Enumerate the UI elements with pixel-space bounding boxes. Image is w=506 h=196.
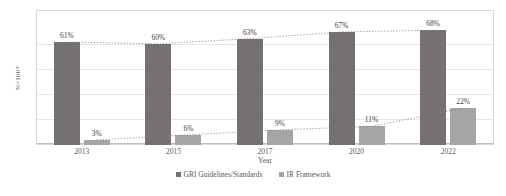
bar-group: 68%22% bbox=[402, 10, 494, 145]
bar-primary[interactable] bbox=[54, 42, 80, 145]
bar-group: 61%3% bbox=[36, 10, 128, 145]
bar-secondary[interactable] bbox=[267, 130, 293, 145]
bar-value-label: 6% bbox=[169, 124, 207, 133]
bar-secondary[interactable] bbox=[175, 135, 201, 145]
legend-swatch-icon bbox=[176, 172, 181, 177]
x-axis-tick: 2017 bbox=[219, 147, 311, 156]
x-axis-title: Year bbox=[36, 156, 494, 165]
x-axis-tick: 2020 bbox=[311, 147, 403, 156]
bar-groups: 61%3%60%6%63%9%67%11%68%22% bbox=[36, 10, 494, 145]
bar-value-label: 11% bbox=[353, 115, 391, 124]
bar-value-label: 22% bbox=[444, 97, 482, 106]
y-axis-title: N=100* bbox=[14, 48, 22, 108]
bar-value-label: 67% bbox=[323, 21, 361, 30]
bar-value-label: 68% bbox=[414, 19, 452, 28]
bar-value-label: 60% bbox=[139, 33, 177, 42]
bar-primary[interactable] bbox=[420, 30, 446, 145]
bar-group: 67%11% bbox=[311, 10, 403, 145]
bar-group: 63%9% bbox=[219, 10, 311, 145]
bar-secondary[interactable] bbox=[359, 126, 385, 145]
chart-container: N=100* 61%3%60%6%63%9%67%11%68%22% 20132… bbox=[0, 0, 506, 196]
bar-value-label: 3% bbox=[78, 129, 116, 138]
bar-primary[interactable] bbox=[237, 39, 263, 145]
bar-primary[interactable] bbox=[145, 44, 171, 145]
bar-group: 60%6% bbox=[128, 10, 220, 145]
x-axis-tick: 2022 bbox=[402, 147, 494, 156]
legend-label: GRI Guidelines/Standards bbox=[184, 170, 263, 179]
legend-label: IR Framework bbox=[287, 170, 331, 179]
x-axis-tick: 2013 bbox=[36, 147, 128, 156]
legend-item[interactable]: GRI Guidelines/Standards bbox=[176, 170, 263, 179]
legend-item[interactable]: IR Framework bbox=[279, 170, 331, 179]
bar-secondary[interactable] bbox=[450, 108, 476, 145]
legend-swatch-icon bbox=[279, 172, 284, 177]
bar-value-label: 9% bbox=[261, 119, 299, 128]
chart-legend: GRI Guidelines/StandardsIR Framework bbox=[0, 170, 506, 179]
bar-value-label: 63% bbox=[231, 28, 269, 37]
bar-secondary[interactable] bbox=[84, 140, 110, 145]
bar-primary[interactable] bbox=[329, 32, 355, 145]
x-axis-tick: 2015 bbox=[128, 147, 220, 156]
bar-value-label: 61% bbox=[48, 31, 86, 40]
